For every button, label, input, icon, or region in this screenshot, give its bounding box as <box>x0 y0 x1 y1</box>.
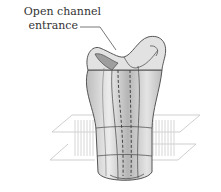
ion-channel-protein <box>86 36 165 180</box>
lipid-bilayer-left <box>75 120 93 156</box>
callout-leader-line <box>80 27 116 50</box>
lipid-bilayer-right <box>153 120 174 156</box>
ion-channel-diagram <box>0 0 221 192</box>
